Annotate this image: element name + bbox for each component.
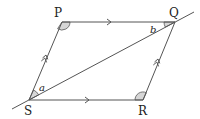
vertex-label-s: S — [24, 104, 32, 118]
angle-label-a: a — [39, 82, 45, 93]
vertex-label-p: P — [54, 6, 62, 20]
parallelogram-diagram: P Q S R a b — [0, 0, 200, 119]
vertex-label-q: Q — [169, 6, 179, 20]
angle-label-b: b — [150, 24, 156, 35]
diagonal-sq-extended — [12, 12, 194, 109]
vertex-label-r: R — [138, 104, 148, 118]
